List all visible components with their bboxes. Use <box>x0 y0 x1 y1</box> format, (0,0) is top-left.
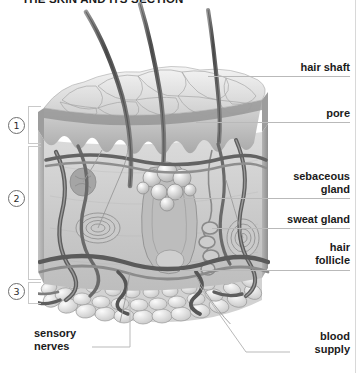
label-sweat-gland: sweat gland <box>230 213 350 226</box>
skin-block <box>32 4 268 330</box>
label-blood-supply: blood supply <box>230 330 350 355</box>
label-hair-follicle-line1: hair <box>330 241 350 253</box>
label-pore: pore <box>230 107 350 120</box>
figure-canvas: THE SKIN AND ITS SECTION <box>0 0 362 373</box>
leader-sebaceous-gland <box>178 198 350 199</box>
leader-hair-follicle <box>180 270 350 271</box>
label-sebaceous-gland-line1: sebaceous <box>293 170 350 182</box>
label-hair-shaft: hair shaft <box>230 61 350 74</box>
label-sebaceous-gland-line2: gland <box>321 183 350 195</box>
layer-marker-1: 1 <box>8 117 25 134</box>
leader-sweat-gland <box>212 228 350 229</box>
label-hair-follicle: hair follicle <box>230 241 350 266</box>
right-edge-rule <box>355 0 356 373</box>
label-sensory-nerves: sensory nerves <box>34 327 144 352</box>
layer-marker-3: 3 <box>8 283 25 300</box>
label-blood-supply-line2: supply <box>315 343 350 355</box>
layer-marker-2: 2 <box>8 190 25 207</box>
bracket-layer-2 <box>28 146 41 280</box>
label-sensory-nerves-line2: nerves <box>34 340 69 352</box>
label-blood-supply-line1: blood <box>320 330 350 342</box>
label-sebaceous-gland: sebaceous gland <box>230 170 350 195</box>
label-hair-follicle-line2: follicle <box>315 254 350 266</box>
label-sensory-nerves-line1: sensory <box>34 327 76 339</box>
leader-hair-shaft <box>208 76 350 77</box>
bracket-layer-3 <box>28 282 41 304</box>
bracket-layer-1 <box>28 106 41 144</box>
leader-pore <box>196 122 350 123</box>
